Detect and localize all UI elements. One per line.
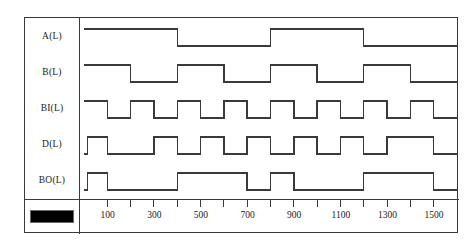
waveform-plot-area [80, 18, 459, 199]
axis-tick-label: 500 [194, 210, 208, 220]
signal-label-text: BO(L) [39, 175, 65, 185]
diagram-frame: A(L) B(L) BI(L) D(L) BO(L) 1003005007009… [24, 17, 458, 233]
timing-diagram-root: A(L) B(L) BI(L) D(L) BO(L) 1003005007009… [0, 0, 473, 243]
signal-label-text: BI(L) [41, 103, 64, 113]
axis-tick-label: 1100 [332, 210, 351, 220]
waveform-trace-bl [84, 65, 457, 82]
signal-label-text: D(L) [42, 139, 62, 149]
waveform-svg [80, 18, 459, 199]
waveform-trace-bol [84, 173, 457, 190]
axis-tick-label: 700 [240, 210, 254, 220]
waveform-trace-bil [84, 101, 457, 118]
signal-label-b: B(L) [25, 54, 79, 90]
axis-tick-label: 300 [147, 210, 161, 220]
signal-label-a: A(L) [25, 18, 79, 54]
axis-tick-label: 900 [287, 210, 301, 220]
signal-label-bo: BO(L) [25, 162, 79, 198]
signal-label-column: A(L) B(L) BI(L) D(L) BO(L) [25, 18, 79, 199]
axis-tick-label: 100 [101, 210, 115, 220]
axis-tick-labels: 100300500700900110013001500 [80, 210, 459, 232]
waveform-trace-dl [84, 137, 457, 154]
time-axis: 100300500700900110013001500 [80, 200, 459, 232]
signal-label-bi: BI(L) [25, 90, 79, 126]
legend-cell [25, 200, 79, 232]
waveform-trace-al [84, 29, 457, 46]
signal-label-text: B(L) [42, 67, 61, 77]
axis-tick-label: 1500 [425, 210, 444, 220]
signal-label-text: A(L) [42, 31, 62, 41]
axis-tick-label: 1300 [378, 210, 397, 220]
black-bar-swatch[interactable] [30, 210, 74, 223]
signal-label-d: D(L) [25, 126, 79, 162]
